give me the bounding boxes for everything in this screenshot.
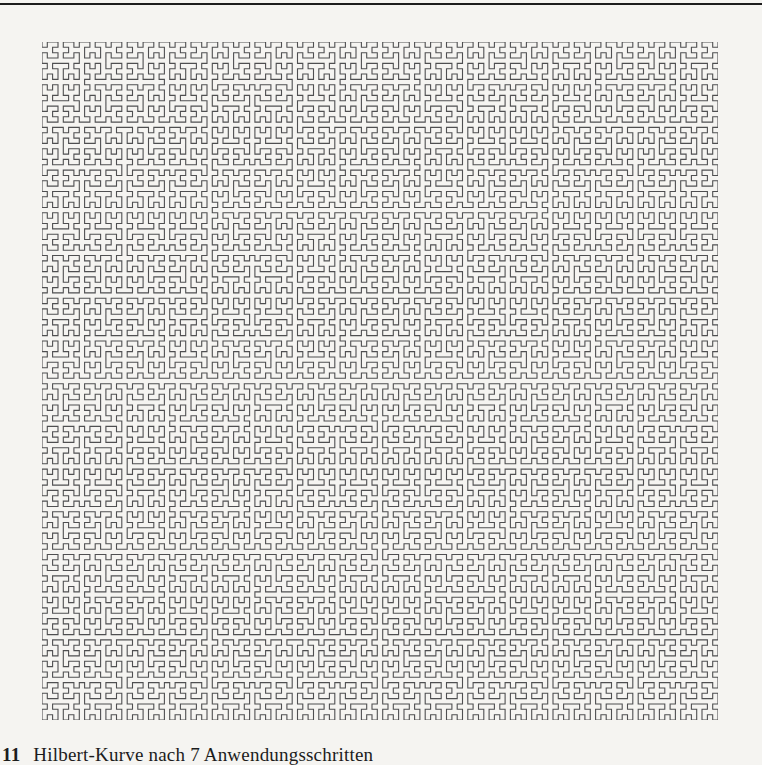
hilbert-figure bbox=[42, 42, 718, 720]
hilbert-curve bbox=[42, 42, 718, 720]
book-page: 11Hilbert-Kurve nach 7 Anwendungsschritt… bbox=[0, 0, 762, 765]
figure-caption: 11Hilbert-Kurve nach 7 Anwendungsschritt… bbox=[2, 744, 742, 765]
figure-caption-number: 11 bbox=[2, 744, 20, 765]
hilbert-curve-path bbox=[42, 42, 718, 720]
figure-caption-text: Hilbert-Kurve nach 7 Anwendungsschritten bbox=[33, 744, 373, 765]
top-rule bbox=[0, 3, 762, 5]
